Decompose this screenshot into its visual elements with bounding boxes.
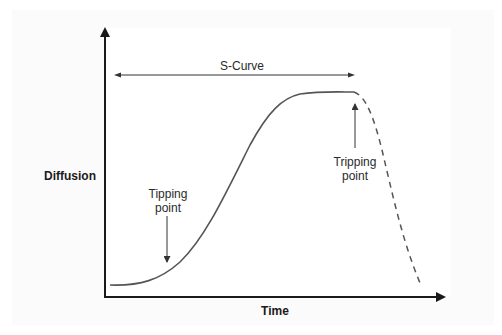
diagram-canvas: S-Curve Tipping point Tripping point Dif… [0, 0, 502, 335]
tipping-label-line2: point [155, 201, 182, 215]
x-axis-label: Time [261, 304, 289, 318]
tripping-label-line1: Tripping [334, 155, 377, 169]
y-axis-label: Diffusion [44, 169, 96, 183]
plot-area [106, 28, 451, 296]
s-curve-diagram: S-Curve Tipping point Tripping point Dif… [0, 0, 502, 335]
tipping-label-line1: Tipping [149, 187, 188, 201]
tripping-label-line2: point [342, 169, 369, 183]
s-curve-label: S-Curve [220, 59, 264, 73]
